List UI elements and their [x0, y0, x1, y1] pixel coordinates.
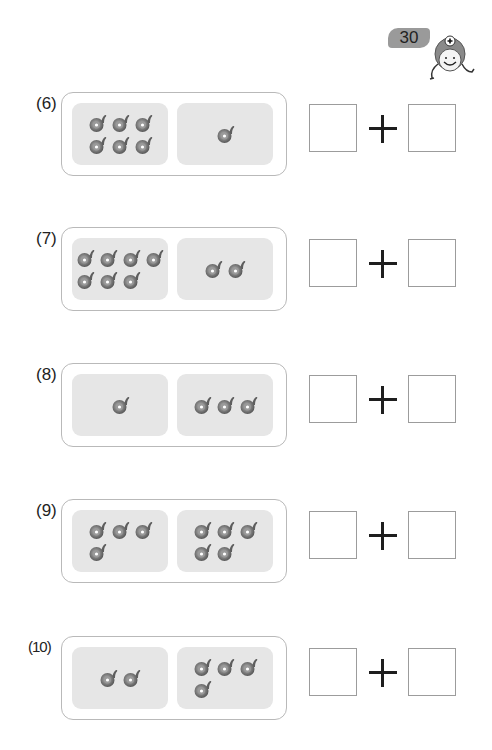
snail-counter-icon: [215, 542, 236, 562]
answer-box-right[interactable]: [408, 375, 456, 423]
right-group-pane: [177, 647, 273, 709]
snail-counter-icon: [110, 135, 131, 155]
snail-counter-icon: [203, 259, 224, 279]
mascot-icon: [422, 26, 478, 82]
left-counter-group: [87, 520, 154, 562]
snail-counter-icon: [215, 520, 236, 540]
left-group-pane: [72, 103, 168, 165]
left-counter-group: [98, 668, 142, 688]
answer-box-right[interactable]: [408, 648, 456, 696]
counter-row: [87, 135, 154, 155]
problem-number-label: (6): [36, 94, 57, 114]
answer-box-right[interactable]: [408, 104, 456, 152]
counting-frame: [61, 92, 287, 176]
counter-row: [87, 520, 154, 540]
snail-counter-icon: [192, 657, 213, 677]
problem-9: (9): [0, 495, 492, 595]
snail-counter-icon: [98, 248, 119, 268]
plus-sign-icon: [369, 115, 397, 143]
counter-row: [87, 113, 154, 133]
snail-counter-icon: [238, 657, 259, 677]
snail-counter-icon: [144, 248, 165, 268]
snail-counter-icon: [192, 679, 213, 699]
snail-counter-icon: [192, 520, 213, 540]
left-group-pane: [72, 647, 168, 709]
left-counter-group: [110, 395, 131, 415]
answer-box-left[interactable]: [309, 375, 357, 423]
plus-sign-icon: [369, 659, 397, 687]
answer-box-right[interactable]: [408, 511, 456, 559]
problem-number-label: (10): [28, 638, 51, 655]
answer-box-left[interactable]: [309, 648, 357, 696]
counting-frame: [61, 636, 287, 720]
snail-counter-icon: [238, 395, 259, 415]
counter-row: [75, 270, 165, 290]
right-counter-group: [192, 657, 259, 699]
snail-counter-icon: [226, 259, 247, 279]
counter-row: [98, 668, 142, 688]
answer-box-left[interactable]: [309, 239, 357, 287]
snail-counter-icon: [87, 135, 108, 155]
counter-row: [87, 542, 154, 562]
problem-number-label: (7): [36, 229, 57, 249]
problem-8: (8): [0, 359, 492, 459]
counter-row: [192, 679, 259, 699]
snail-counter-icon: [121, 668, 142, 688]
right-counter-group: [192, 395, 259, 415]
plus-sign-icon: [369, 386, 397, 414]
problem-6: (6): [0, 88, 492, 188]
snail-counter-icon: [215, 657, 236, 677]
snail-counter-icon: [133, 135, 154, 155]
snail-counter-icon: [121, 270, 142, 290]
counter-row: [192, 542, 259, 562]
problem-number-label: (8): [36, 365, 57, 385]
counter-row: [75, 248, 165, 268]
right-counter-group: [215, 124, 236, 144]
snail-counter-icon: [87, 113, 108, 133]
left-group-pane: [72, 374, 168, 436]
snail-counter-icon: [121, 248, 142, 268]
problem-7: (7): [0, 223, 492, 323]
snail-counter-icon: [75, 270, 96, 290]
counting-frame: [61, 499, 287, 583]
right-group-pane: [177, 374, 273, 436]
right-counter-group: [203, 259, 247, 279]
problem-10: (10): [0, 632, 492, 732]
problem-number-label: (9): [36, 501, 57, 521]
snail-counter-icon: [238, 520, 259, 540]
left-counter-group: [75, 248, 165, 290]
snail-counter-icon: [133, 113, 154, 133]
snail-counter-icon: [110, 395, 131, 415]
snail-counter-icon: [192, 395, 213, 415]
snail-counter-icon: [192, 542, 213, 562]
right-group-pane: [177, 238, 273, 300]
answer-box-right[interactable]: [408, 239, 456, 287]
snail-counter-icon: [87, 520, 108, 540]
counter-row: [110, 395, 131, 415]
plus-sign-icon: [369, 522, 397, 550]
snail-counter-icon: [98, 668, 119, 688]
snail-counter-icon: [110, 520, 131, 540]
counter-row: [192, 657, 259, 677]
answer-box-left[interactable]: [309, 511, 357, 559]
snail-counter-icon: [215, 124, 236, 144]
counter-row: [203, 259, 247, 279]
right-group-pane: [177, 510, 273, 572]
counter-row: [192, 395, 259, 415]
snail-counter-icon: [215, 395, 236, 415]
snail-counter-icon: [110, 113, 131, 133]
snail-counter-icon: [75, 248, 96, 268]
plus-sign-icon: [369, 250, 397, 278]
counter-row: [192, 520, 259, 540]
right-counter-group: [192, 520, 259, 562]
left-counter-group: [87, 113, 154, 155]
counting-frame: [61, 227, 287, 311]
left-group-pane: [72, 510, 168, 572]
answer-box-left[interactable]: [309, 104, 357, 152]
snail-counter-icon: [133, 520, 154, 540]
right-group-pane: [177, 103, 273, 165]
snail-counter-icon: [87, 542, 108, 562]
snail-counter-icon: [98, 270, 119, 290]
counting-frame: [61, 363, 287, 447]
counter-row: [215, 124, 236, 144]
